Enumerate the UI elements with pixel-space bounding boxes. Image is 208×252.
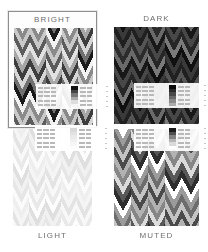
legend-row	[178, 145, 203, 148]
legend-row	[79, 141, 104, 144]
legend-value	[185, 133, 190, 135]
legend-value	[149, 146, 154, 148]
legend-value	[149, 94, 154, 96]
legend-value	[38, 100, 43, 102]
legend-value	[43, 129, 49, 131]
legend-value	[136, 103, 141, 105]
legend-row	[178, 129, 203, 132]
legend-value	[37, 142, 42, 144]
legend-value	[136, 142, 141, 144]
legend-number-table	[135, 127, 168, 150]
legend-value	[51, 91, 56, 93]
legend-value	[136, 86, 141, 88]
legend-row	[37, 133, 68, 136]
legend-value	[79, 146, 85, 148]
legend-value	[142, 94, 148, 96]
legend-row	[136, 90, 167, 93]
legend-value	[79, 133, 85, 135]
legend-row	[178, 94, 203, 97]
legend-value	[185, 137, 190, 139]
legend-axis-ticks	[204, 127, 206, 150]
legend-value	[86, 142, 91, 144]
palette-cell-dark: DARK	[104, 0, 208, 126]
legend-row	[136, 145, 167, 148]
palette-legend-bright	[36, 84, 109, 109]
legend-value	[142, 99, 148, 101]
legend-value	[50, 133, 55, 135]
legend-value	[43, 142, 49, 144]
legend-row	[80, 87, 105, 90]
legend-value	[136, 137, 141, 139]
legend-value	[149, 99, 154, 101]
legend-value	[149, 129, 154, 131]
palette-card-dark[interactable]: DARK	[110, 11, 203, 128]
palette-cell-light: LIGHT	[0, 126, 104, 252]
legend-row	[136, 129, 167, 132]
palette-title-dark: DARK	[110, 14, 203, 23]
legend-value	[51, 100, 56, 102]
legend-row	[136, 141, 167, 144]
legend-row	[136, 137, 167, 140]
legend-value	[149, 103, 154, 105]
legend-value	[50, 129, 55, 131]
legend-number-table	[79, 85, 106, 108]
legend-value	[178, 86, 184, 88]
legend-value	[185, 142, 190, 144]
legend-value	[38, 95, 43, 97]
legend-value	[51, 87, 56, 89]
legend-row	[80, 99, 105, 102]
legend-value	[43, 133, 49, 135]
legend-row	[38, 99, 69, 102]
legend-value	[80, 91, 86, 93]
legend-value	[142, 103, 148, 105]
legend-value	[149, 86, 154, 88]
legend-color-ramp	[71, 86, 78, 107]
legend-value	[178, 142, 184, 144]
palette-card-muted[interactable]: MUTED	[110, 126, 203, 246]
legend-value	[87, 95, 92, 97]
legend-value	[136, 146, 141, 148]
legend-value	[50, 137, 55, 139]
legend-row	[178, 86, 203, 89]
palette-thumb-dark[interactable]	[114, 27, 199, 124]
legend-row	[80, 103, 105, 106]
legend-number-table	[78, 127, 105, 150]
legend-number-table	[135, 84, 168, 107]
legend-value	[38, 104, 43, 106]
legend-row	[136, 94, 167, 97]
palette-card-light[interactable]: LIGHT	[8, 126, 97, 246]
legend-value	[178, 129, 184, 131]
legend-value	[142, 86, 148, 88]
legend-value	[136, 94, 141, 96]
legend-row	[178, 133, 203, 136]
palette-picker-root: BRIGHT DARK	[0, 0, 208, 252]
legend-value	[142, 90, 148, 92]
legend-row	[178, 98, 203, 101]
palette-title-muted: MUTED	[110, 231, 203, 240]
palette-title-light: LIGHT	[8, 231, 97, 240]
palette-card-bright[interactable]: BRIGHT	[8, 11, 97, 128]
legend-value	[43, 137, 49, 139]
legend-value	[178, 99, 184, 101]
legend-color-ramp	[169, 128, 176, 149]
legend-row	[80, 91, 105, 94]
legend-value	[50, 146, 55, 148]
legend-value	[142, 133, 148, 135]
legend-number-table	[177, 84, 204, 107]
palette-thumb-bright[interactable]	[14, 28, 93, 125]
legend-value	[185, 90, 190, 92]
palette-grid: BRIGHT DARK	[0, 0, 208, 252]
legend-value	[38, 87, 43, 89]
legend-value	[80, 87, 86, 89]
legend-axis-ticks	[204, 84, 206, 107]
legend-value	[149, 142, 154, 144]
legend-row	[178, 102, 203, 105]
legend-value	[136, 129, 141, 131]
legend-value	[37, 146, 42, 148]
legend-value	[44, 87, 50, 89]
legend-value	[136, 90, 141, 92]
legend-row	[37, 141, 68, 144]
legend-value	[142, 142, 148, 144]
legend-value	[86, 129, 91, 131]
legend-value	[149, 137, 154, 139]
